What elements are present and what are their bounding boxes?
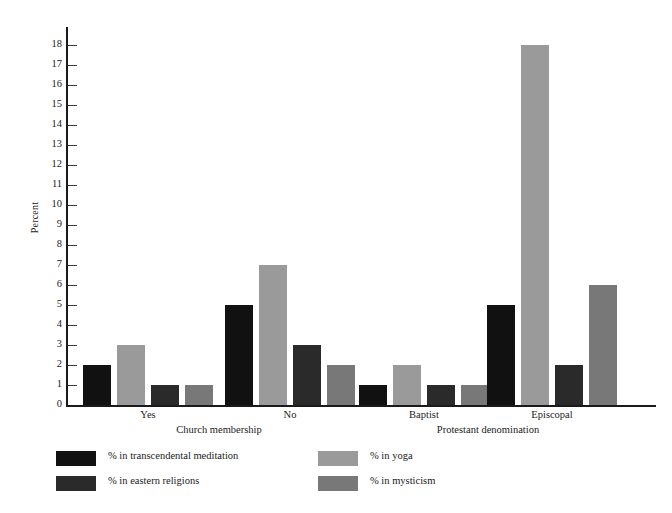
bar [225,305,253,405]
y-tick-label: 14 [36,118,62,129]
y-tick-label: 16 [36,78,62,89]
legend-label: % in yoga [370,450,413,461]
y-tick-label: 1 [36,378,62,389]
bar [327,365,355,405]
bar [589,285,617,405]
x-axis-group-label: Church membership [109,424,329,435]
legend-label: % in mysticism [370,475,435,486]
bar [185,385,213,405]
y-tick-label: 11 [36,178,62,189]
legend-label: % in transcendental meditation [108,450,238,461]
bar [117,345,145,405]
x-tick-label: Baptist [369,409,479,420]
x-tick-label: No [235,409,345,420]
bar [83,365,111,405]
x-axis-line [66,405,656,407]
bar-chart: Percent 0123456789101112131415161718 Yes… [0,0,672,513]
bar [393,365,421,405]
x-tick-label: Yes [93,409,203,420]
legend-label: % in eastern religions [108,475,199,486]
legend-swatch [318,451,358,466]
y-tick-label: 4 [36,318,62,329]
y-tick-label: 2 [36,358,62,369]
y-tick-label: 15 [36,98,62,109]
bar [461,385,489,405]
bar [359,385,387,405]
y-tick-label: 0 [36,398,62,409]
y-tick-label: 9 [36,218,62,229]
bar [259,265,287,405]
bar [555,365,583,405]
y-tick-label: 10 [36,198,62,209]
bar [427,385,455,405]
x-tick-label: Episcopal [497,409,607,420]
legend-swatch [318,476,358,491]
bar [293,345,321,405]
legend-swatch [56,476,96,491]
x-axis-group-label: Protestant denomination [378,424,598,435]
y-tick-label: 12 [36,158,62,169]
bar [521,45,549,405]
chart-legend: % in transcendental meditation% in yoga%… [56,450,656,496]
y-tick-label: 6 [36,278,62,289]
y-tick-label: 7 [36,258,62,269]
plot-area [66,27,656,405]
y-tick-label: 18 [36,38,62,49]
y-tick-label: 3 [36,338,62,349]
y-tick-label: 17 [36,58,62,69]
bar [151,385,179,405]
y-tick-label: 13 [36,138,62,149]
y-tick-label: 5 [36,298,62,309]
bar [487,305,515,405]
legend-swatch [56,451,96,466]
y-tick-label: 8 [36,238,62,249]
